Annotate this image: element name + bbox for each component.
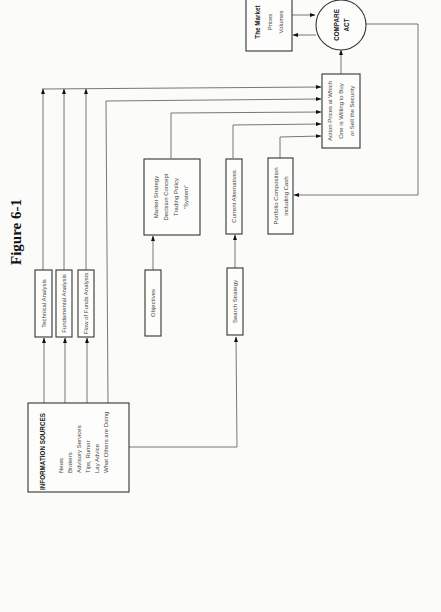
edge-current-action (233, 124, 321, 158)
info-source-item: What Others are Doing (103, 412, 109, 473)
node-objectives: Objectives (145, 270, 161, 336)
edge-strategy-action (171, 112, 321, 158)
node-portfolio-composition: Portfolio Composition including Cash (268, 158, 293, 234)
fundamental-analysis-label: Fundamental Analysis (61, 274, 67, 333)
figure-title: Figure 6-1 (8, 199, 24, 265)
action-prices-line: Action Prices at Which (327, 81, 333, 141)
compare-act-line: COMPARE (333, 9, 340, 41)
node-technical-analysis: Technical Analysis (35, 270, 52, 337)
info-source-item: Brokers (67, 452, 73, 473)
flow-diagram: Figure 6-1 IN (0, 0, 441, 612)
market-strategy-line: Decision Concept (163, 173, 169, 220)
edge-analysis-bus-to-action (42, 87, 321, 89)
edge-info-direct-to-action (106, 99, 321, 403)
market-strategy-line: Trading Policy (173, 178, 179, 216)
compare-act-line: ACT (343, 18, 350, 31)
node-information-sources: INFORMATION SOURCES News Brokers Advisor… (28, 403, 129, 492)
the-market-line: Volumes (278, 10, 284, 33)
portfolio-composition-line: Portfolio Composition (273, 167, 279, 224)
node-the-market: The Market Prices Volumes (246, 0, 292, 51)
portfolio-composition-line: including Cash (283, 176, 289, 215)
info-source-item: News (58, 458, 64, 473)
objectives-label: Objectives (150, 289, 156, 317)
info-source-item: Tips, Rumor (85, 441, 91, 473)
node-market-strategy: Market Strategy Decision Concept Trading… (144, 159, 200, 235)
node-fundamental-analysis: Fundamental Analysis (56, 270, 72, 337)
market-strategy-line: Market Strategy (153, 176, 159, 218)
flow-of-funds-label: Flow of Funds Analysis (83, 273, 89, 334)
info-source-item: Advisory Services (76, 425, 82, 473)
edge-info-search (129, 337, 237, 447)
technical-analysis-label: Technical Analysis (41, 279, 47, 328)
info-source-item: Lay Advice (94, 443, 100, 473)
node-action-prices: Action Prices at Which One is Willing to… (322, 74, 360, 148)
the-market-line: The Market (254, 4, 261, 38)
node-flow-of-funds: Flow of Funds Analysis (78, 270, 94, 337)
node-search-strategy: Search Strategy (227, 268, 243, 335)
info-sources-heading: INFORMATION SOURCES (39, 413, 46, 490)
action-prices-line: One is Willing to Buy (338, 83, 344, 138)
market-strategy-line: "System" (183, 185, 189, 209)
node-current-alternatives: Current Alternatives (226, 159, 242, 234)
current-alternatives-label: Current Alternatives (231, 170, 237, 223)
action-prices-line: or Sell the Security (349, 86, 355, 136)
edge-portfolio-action (280, 136, 321, 158)
search-strategy-label: Search Strategy (232, 280, 238, 323)
the-market-line: Prices (267, 14, 273, 31)
node-compare-act: COMPARE ACT (316, 0, 366, 50)
